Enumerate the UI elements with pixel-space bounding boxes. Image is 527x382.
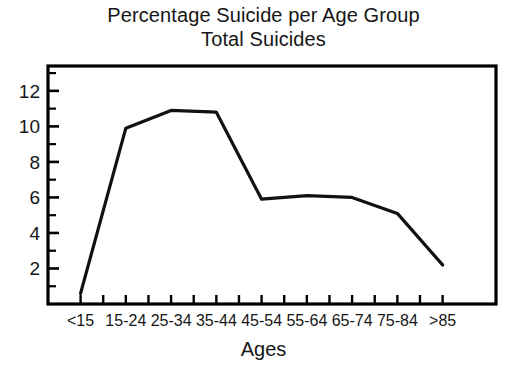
x-axis-tick-label: 65-74	[332, 312, 373, 329]
y-axis-tick-label: 8	[29, 152, 40, 173]
x-axis-tick-label: 55-64	[286, 312, 327, 329]
chart-figure: Percentage Suicide per Age Group Total S…	[0, 0, 527, 382]
y-axis-tick-label: 6	[29, 187, 40, 208]
x-axis-tick-label: <15	[67, 312, 94, 329]
y-axis-tick-label: 4	[29, 223, 40, 244]
x-axis-tick-label: 45-54	[241, 312, 282, 329]
x-axis-tick-label: 35-44	[196, 312, 237, 329]
x-axis-title: Ages	[0, 338, 527, 361]
y-axis-tick-label: 12	[19, 81, 40, 102]
plot-area: 24681012<1515-2425-3435-4445-5455-6465-7…	[0, 0, 527, 382]
x-axis-tick-label: 15-24	[105, 312, 146, 329]
x-axis-tick-label: 25-34	[151, 312, 192, 329]
y-axis-tick-label: 10	[19, 116, 40, 137]
data-series-line	[81, 110, 443, 293]
x-axis-tick-label: >85	[429, 312, 456, 329]
plot-frame	[48, 66, 496, 304]
y-axis-tick-label: 2	[29, 258, 40, 279]
x-axis-tick-label: 75-84	[377, 312, 418, 329]
